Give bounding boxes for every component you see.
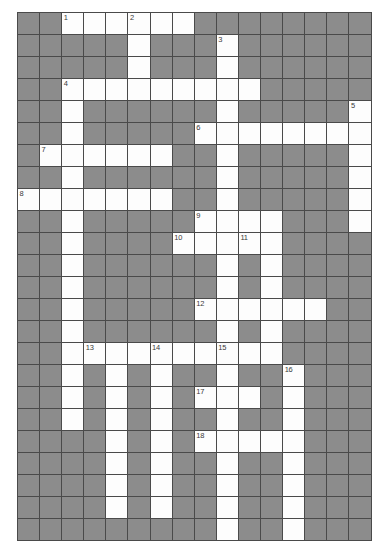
crossword-cell-open[interactable]: [106, 431, 128, 453]
crossword-cell-open[interactable]: [216, 497, 238, 519]
crossword-cell-open[interactable]: [106, 409, 128, 431]
crossword-cell-open[interactable]: [62, 101, 84, 123]
crossword-cell-open[interactable]: [216, 475, 238, 497]
crossword-cell-open[interactable]: [150, 145, 172, 167]
crossword-cell-open[interactable]: [62, 255, 84, 277]
crossword-cell-open[interactable]: [216, 233, 238, 255]
crossword-cell-open[interactable]: [62, 277, 84, 299]
crossword-cell-open[interactable]: [128, 145, 150, 167]
crossword-cell-open[interactable]: [150, 365, 172, 387]
crossword-cell-open[interactable]: [216, 57, 238, 79]
crossword-cell-open[interactable]: [40, 189, 62, 211]
crossword-cell-open[interactable]: [327, 123, 349, 145]
crossword-cell-open[interactable]: [283, 299, 305, 321]
crossword-cell-open[interactable]: [150, 431, 172, 453]
crossword-cell-open[interactable]: [194, 343, 216, 365]
crossword-cell-open[interactable]: [261, 343, 283, 365]
crossword-cell-open[interactable]: 15: [216, 343, 238, 365]
crossword-cell-open[interactable]: [150, 13, 172, 35]
crossword-cell-open[interactable]: [62, 211, 84, 233]
crossword-cell-open[interactable]: [194, 79, 216, 101]
crossword-cell-open[interactable]: [216, 255, 238, 277]
crossword-cell-open[interactable]: [216, 277, 238, 299]
crossword-cell-open[interactable]: [283, 431, 305, 453]
crossword-cell-open[interactable]: 11: [238, 233, 260, 255]
crossword-cell-open[interactable]: [106, 79, 128, 101]
crossword-cell-open[interactable]: [84, 13, 106, 35]
crossword-cell-open[interactable]: [150, 409, 172, 431]
crossword-cell-open[interactable]: [238, 79, 260, 101]
crossword-cell-open[interactable]: [216, 453, 238, 475]
crossword-cell-open[interactable]: [128, 189, 150, 211]
crossword-cell-open[interactable]: 17: [194, 387, 216, 409]
crossword-cell-open[interactable]: [62, 123, 84, 145]
crossword-cell-open[interactable]: 14: [150, 343, 172, 365]
crossword-cell-open[interactable]: [238, 387, 260, 409]
crossword-cell-open[interactable]: [261, 299, 283, 321]
crossword-cell-open[interactable]: [216, 409, 238, 431]
crossword-cell-open[interactable]: [283, 497, 305, 519]
crossword-cell-open[interactable]: [62, 299, 84, 321]
crossword-cell-open[interactable]: 9: [194, 211, 216, 233]
crossword-cell-open[interactable]: [283, 387, 305, 409]
crossword-cell-open[interactable]: [238, 431, 260, 453]
crossword-cell-open[interactable]: [62, 189, 84, 211]
crossword-cell-open[interactable]: [216, 519, 238, 541]
crossword-cell-open[interactable]: [283, 475, 305, 497]
crossword-cell-open[interactable]: [216, 321, 238, 343]
crossword-cell-open[interactable]: [349, 123, 371, 145]
crossword-grid[interactable]: 123456789101112131415161718: [17, 12, 372, 541]
crossword-cell-open[interactable]: [62, 145, 84, 167]
crossword-cell-open[interactable]: [128, 343, 150, 365]
crossword-cell-open[interactable]: [305, 299, 327, 321]
crossword-cell-open[interactable]: [349, 145, 371, 167]
crossword-cell-open[interactable]: [150, 475, 172, 497]
crossword-cell-open[interactable]: [216, 431, 238, 453]
crossword-cell-open[interactable]: [62, 321, 84, 343]
crossword-cell-open[interactable]: [261, 211, 283, 233]
crossword-cell-open[interactable]: [150, 453, 172, 475]
crossword-cell-open[interactable]: 7: [40, 145, 62, 167]
crossword-cell-open[interactable]: [216, 167, 238, 189]
crossword-cell-open[interactable]: 3: [216, 35, 238, 57]
crossword-cell-open[interactable]: [261, 233, 283, 255]
crossword-cell-open[interactable]: [150, 387, 172, 409]
crossword-cell-open[interactable]: [106, 475, 128, 497]
crossword-cell-open[interactable]: [84, 79, 106, 101]
crossword-cell-open[interactable]: [349, 211, 371, 233]
crossword-cell-open[interactable]: [216, 123, 238, 145]
crossword-cell-open[interactable]: [62, 409, 84, 431]
crossword-cell-open[interactable]: [106, 387, 128, 409]
crossword-cell-open[interactable]: 1: [62, 13, 84, 35]
crossword-cell-open[interactable]: [349, 189, 371, 211]
crossword-cell-open[interactable]: [261, 277, 283, 299]
crossword-cell-open[interactable]: [84, 145, 106, 167]
crossword-cell-open[interactable]: 5: [349, 101, 371, 123]
crossword-cell-open[interactable]: [216, 211, 238, 233]
crossword-cell-open[interactable]: [216, 101, 238, 123]
crossword-cell-open[interactable]: [150, 497, 172, 519]
crossword-cell-open[interactable]: [194, 233, 216, 255]
crossword-cell-open[interactable]: [62, 365, 84, 387]
crossword-cell-open[interactable]: 10: [172, 233, 194, 255]
crossword-cell-open[interactable]: [216, 79, 238, 101]
crossword-cell-open[interactable]: [305, 123, 327, 145]
crossword-cell-open[interactable]: [283, 519, 305, 541]
crossword-cell-open[interactable]: [106, 189, 128, 211]
crossword-cell-open[interactable]: [128, 57, 150, 79]
crossword-cell-open[interactable]: [261, 255, 283, 277]
crossword-cell-open[interactable]: [349, 167, 371, 189]
crossword-cell-open[interactable]: [106, 13, 128, 35]
crossword-cell-open[interactable]: [150, 189, 172, 211]
crossword-cell-open[interactable]: [216, 365, 238, 387]
crossword-cell-open[interactable]: 16: [283, 365, 305, 387]
crossword-cell-open[interactable]: [62, 343, 84, 365]
crossword-cell-open[interactable]: [216, 299, 238, 321]
crossword-cell-open[interactable]: [283, 123, 305, 145]
crossword-cell-open[interactable]: 13: [84, 343, 106, 365]
crossword-cell-open[interactable]: [216, 145, 238, 167]
crossword-cell-open[interactable]: [106, 365, 128, 387]
crossword-cell-open[interactable]: [238, 299, 260, 321]
crossword-cell-open[interactable]: [238, 123, 260, 145]
crossword-cell-open[interactable]: 6: [194, 123, 216, 145]
